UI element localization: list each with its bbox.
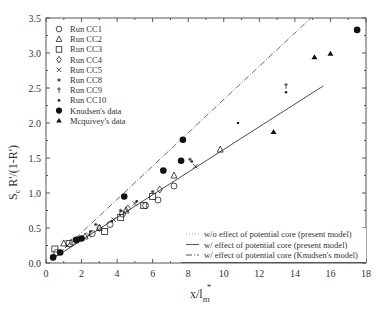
legend-item: Knudsen's data xyxy=(56,106,122,116)
y-tick-label: 3.5 xyxy=(29,13,42,24)
x-axis-label: x/lm* xyxy=(190,282,212,304)
circle-open-marker xyxy=(143,203,149,209)
circle-filled-marker xyxy=(56,108,62,114)
circle-filled-marker xyxy=(180,137,187,144)
legend-label: Run CC3 xyxy=(70,44,102,54)
marker-legend: Run CC1Run CC2Run CC3Run CC4Run CC5Run C… xyxy=(56,24,126,126)
legend-label: Run CC9 xyxy=(70,85,102,95)
circle-open-marker xyxy=(56,26,62,32)
small-dot-marker xyxy=(135,200,138,203)
square-open-marker xyxy=(56,47,62,53)
x-tick-label: 12 xyxy=(254,268,264,279)
circle-filled-marker xyxy=(121,193,128,200)
legend-label: w/o effect of potential core (present mo… xyxy=(204,229,352,239)
circle-filled-marker xyxy=(57,249,64,256)
legend-label: Run CC8 xyxy=(70,75,102,85)
circle-open-marker xyxy=(171,183,177,189)
legend-label: Run CC4 xyxy=(70,55,103,65)
triangle-filled-marker xyxy=(271,129,277,134)
line-legend: w/o effect of potential core (present mo… xyxy=(181,228,366,263)
legend-item: Run CC5 xyxy=(57,65,102,75)
y-tick-label: 0.5 xyxy=(29,223,42,234)
square-open-marker xyxy=(52,246,58,252)
triangle-open-marker xyxy=(56,36,62,42)
x-tick-label: 18 xyxy=(361,268,371,279)
y-tick-label: 2.0 xyxy=(29,118,42,129)
y-tick-label: 1.5 xyxy=(29,153,42,164)
legend-item: Run CC8 xyxy=(57,75,102,85)
legend-label: Run CC10 xyxy=(70,95,106,105)
triangle-filled-marker xyxy=(311,54,317,59)
x-tick-label: 8 xyxy=(186,268,191,279)
legend-item: Run CC4 xyxy=(57,55,103,65)
series-points xyxy=(65,164,197,248)
small-dot-marker xyxy=(89,230,92,233)
legend-label: Knudsen's data xyxy=(70,106,122,116)
series-points xyxy=(271,51,334,134)
y-axis-label: Sc R'/(1-R') xyxy=(6,145,22,200)
small-dot-marker xyxy=(190,160,193,163)
legend-item: Run CC10 xyxy=(58,95,106,105)
triangle-filled-marker xyxy=(56,118,62,123)
legend-label: Run CC2 xyxy=(70,34,102,44)
series-points xyxy=(52,194,156,253)
legend-label: Mcquivey's data xyxy=(70,116,126,126)
legend-label: w/ effect of potential core (Knudsen's m… xyxy=(204,250,358,260)
small-dot-marker xyxy=(285,91,288,94)
legend-item: Run CC9 xyxy=(57,85,102,95)
legend-item: w/o effect of potential core (present mo… xyxy=(186,229,352,239)
circle-filled-marker xyxy=(78,235,85,242)
x-tick-label: 10 xyxy=(219,268,229,279)
legend-item: Run CC3 xyxy=(56,44,102,54)
chart: 0246810121416180.00.51.01.52.02.53.03.5 … xyxy=(0,0,383,312)
diamond-open-marker xyxy=(57,56,62,63)
circle-filled-marker xyxy=(354,27,361,34)
series-points xyxy=(284,83,288,89)
x-tick-label: 6 xyxy=(150,268,155,279)
y-tick-label: 3.0 xyxy=(29,48,42,59)
legend-item: Run CC1 xyxy=(56,24,102,34)
small-dot-marker xyxy=(58,99,61,102)
legend-item: Run CC2 xyxy=(56,34,102,44)
circle-filled-marker xyxy=(50,254,57,261)
y-tick-label: 2.5 xyxy=(29,83,42,94)
legend-label: Run CC5 xyxy=(70,65,102,75)
square-open-marker xyxy=(102,229,108,235)
legend-item: w/ effect of potential core (Knudsen's m… xyxy=(186,250,358,260)
x-tick-label: 0 xyxy=(44,268,49,279)
circle-filled-marker xyxy=(178,158,185,165)
legend-label: w/ effect of potential core (present mod… xyxy=(204,240,348,250)
triangle-filled-marker xyxy=(327,51,333,56)
triangle-open-marker xyxy=(171,172,177,178)
small-dot-marker xyxy=(110,220,113,223)
series-points xyxy=(94,158,192,227)
circle-filled-marker xyxy=(160,167,167,174)
y-tick-label: 1.0 xyxy=(29,188,42,199)
x-tick-label: 2 xyxy=(79,268,84,279)
y-tick-label: 0.0 xyxy=(29,258,42,269)
small-dot-marker xyxy=(237,122,240,125)
legend-item: Mcquivey's data xyxy=(56,116,126,126)
legend-item: w/ effect of potential core (present mod… xyxy=(186,240,348,250)
x-tick-label: 16 xyxy=(325,268,335,279)
legend-label: Run CC1 xyxy=(70,24,102,34)
x-tick-label: 4 xyxy=(115,268,120,279)
x-tick-label: 14 xyxy=(290,268,300,279)
